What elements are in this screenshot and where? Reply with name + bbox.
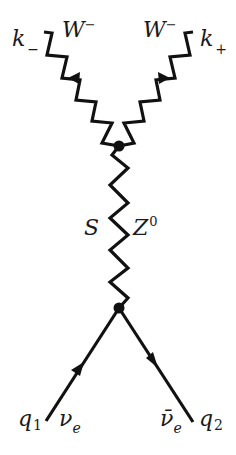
feynman-diagram <box>0 0 236 455</box>
label-nu-e: νe <box>59 408 81 430</box>
upper-vertex-dot <box>114 141 125 152</box>
label-k-plus: k+ <box>200 28 225 50</box>
label-nu-e-bar: ν̄e <box>160 408 182 430</box>
w-boson-left-line <box>44 32 119 146</box>
z0-boson-line <box>110 146 128 308</box>
arrow-w-right-icon <box>158 72 170 84</box>
arrow-nu-in-icon <box>71 362 84 376</box>
label-w-left: W− <box>62 19 96 41</box>
lower-vertex-dot <box>114 303 125 314</box>
arrow-w-left-icon <box>68 72 80 84</box>
w-boson-right-line <box>119 32 193 146</box>
label-q2: q2 <box>199 408 222 430</box>
label-s: S <box>84 217 99 239</box>
label-q1: q1 <box>18 408 41 430</box>
label-z0: Z0 <box>133 217 157 239</box>
label-w-right: W− <box>143 19 177 41</box>
label-k-minus: k− <box>12 28 37 50</box>
